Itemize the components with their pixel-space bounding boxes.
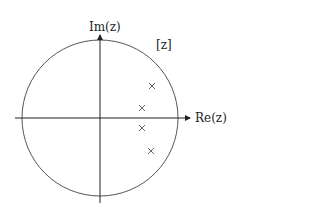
pole-icon [139,105,145,111]
pole-icon [139,125,145,131]
pole-icon [148,148,154,154]
real-axis-label: Re(z) [195,112,227,124]
pole-icon [149,83,155,89]
plane-label: [z] [156,39,172,51]
imaginary-axis-label: Im(z) [89,21,121,33]
